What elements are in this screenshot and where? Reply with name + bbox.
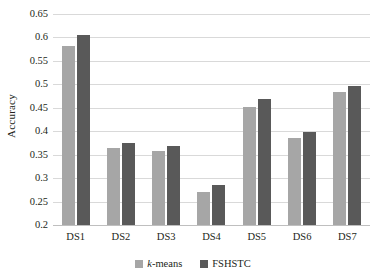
- y-axis-tick-label: 0.5: [35, 79, 48, 90]
- x-axis-tick-label: DS2: [98, 228, 143, 246]
- x-axis-tick-label: DS4: [189, 228, 234, 246]
- bar-group: [144, 14, 189, 225]
- bar-group: [279, 14, 324, 225]
- legend-label: FSHSTC: [212, 259, 251, 270]
- bar: [212, 185, 225, 225]
- legend-swatch-icon: [135, 260, 143, 268]
- legend-label: k-means: [147, 259, 182, 270]
- legend-swatch-icon: [200, 260, 208, 268]
- y-axis-tick-label: 0.65: [30, 9, 48, 20]
- bar: [152, 151, 165, 225]
- x-axis-tick-label: DS6: [279, 228, 324, 246]
- chart-legend: k-meansFSHSTC: [0, 256, 386, 272]
- y-axis-tick-label: 0.55: [30, 56, 48, 67]
- bar: [62, 46, 75, 225]
- y-axis-tick-labels: 0.20.250.30.350.40.450.50.550.60.65: [20, 14, 50, 225]
- bar: [303, 132, 316, 225]
- y-axis-title-label: Accuracy: [5, 94, 17, 138]
- bar: [167, 146, 180, 225]
- bar: [77, 35, 90, 225]
- legend-item[interactable]: k-means: [135, 259, 182, 270]
- bar: [197, 192, 210, 225]
- y-axis-title: Accuracy: [0, 0, 22, 232]
- x-axis-line: [53, 225, 370, 226]
- bar: [258, 99, 271, 225]
- x-axis-tick-label: DS7: [325, 228, 370, 246]
- x-axis-tick-label: DS5: [234, 228, 279, 246]
- bar: [348, 86, 361, 225]
- bar-group: [98, 14, 143, 225]
- bar: [333, 92, 346, 225]
- y-axis-tick-label: 0.35: [30, 149, 48, 160]
- bar: [107, 148, 120, 225]
- y-axis-tick-label: 0.2: [35, 220, 48, 231]
- x-axis-tick-label: DS3: [144, 228, 189, 246]
- bar-group: [234, 14, 279, 225]
- x-axis-tick-label: DS1: [53, 228, 98, 246]
- y-axis-tick-label: 0.6: [35, 32, 48, 43]
- bar: [288, 138, 301, 225]
- accuracy-bar-chart: Accuracy 0.20.250.30.350.40.450.50.550.6…: [0, 0, 386, 280]
- x-axis-tick-labels: DS1DS2DS3DS4DS5DS6DS7: [53, 228, 370, 246]
- plot-area: [53, 14, 370, 225]
- bar-group: [53, 14, 98, 225]
- bar: [243, 107, 256, 225]
- legend-item[interactable]: FSHSTC: [200, 259, 251, 270]
- bar: [122, 143, 135, 225]
- bar-group: [325, 14, 370, 225]
- bars-layer: [53, 14, 370, 225]
- y-axis-tick-label: 0.4: [35, 126, 48, 137]
- y-axis-tick-label: 0.25: [30, 196, 48, 207]
- y-axis-tick-label: 0.3: [35, 173, 48, 184]
- y-axis-tick-label: 0.45: [30, 103, 48, 114]
- bar-group: [189, 14, 234, 225]
